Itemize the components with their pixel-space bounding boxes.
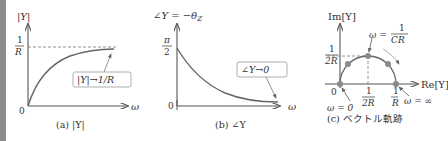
label-omega-inf: ω = ∞ <box>404 96 432 106</box>
point-omega-zero <box>337 81 343 87</box>
panel-a: |Y| 1 R 0 ω |Y|→1/R (a) |Y| <box>14 11 139 131</box>
label-omega-zero: ω = 0 <box>327 103 354 113</box>
panel-c: Im[Y] Re[Y] 1 2R 0 1 2R 1 R ω = 0 ω = ∞ … <box>324 11 448 124</box>
origin-label: 0 <box>19 106 25 116</box>
x-axis-label: ω <box>131 101 139 112</box>
x-tick-full: R <box>391 98 399 108</box>
y-tick-numerator: 1 <box>17 35 23 45</box>
origin-label: 0 <box>168 101 174 111</box>
y-tick-label: 2R <box>324 56 338 66</box>
label-omega-peak: ω = <box>369 30 387 40</box>
panel-b: ∠Y = −θZ π 2 0 ω ∠Y→0 (b) ∠Y <box>153 10 296 130</box>
point-omega-peak <box>365 53 371 59</box>
caption-a: (a) |Y| <box>56 119 85 131</box>
x-axis-label: ω <box>288 101 296 112</box>
annotation-text: |Y|→1/R <box>77 74 114 86</box>
caption-b: (b) ∠Y <box>215 119 246 130</box>
x-axis-label: Re[Y] <box>421 79 448 90</box>
svg-text:CR: CR <box>391 35 405 45</box>
origin-label: 0 <box>331 87 337 97</box>
svg-text:1: 1 <box>393 86 399 96</box>
x-tick-half: 2R <box>361 98 375 108</box>
y-axis-label: ∠Y = −θZ <box>153 10 202 23</box>
y-axis-label: |Y| <box>17 11 30 23</box>
svg-text:1: 1 <box>366 86 372 96</box>
svg-text:1: 1 <box>329 44 335 54</box>
y-axis-label: Im[Y] <box>328 11 356 22</box>
caption-c: (c) ベクトル軌跡 <box>327 113 403 124</box>
locus-semicircle <box>340 56 396 84</box>
y-tick-denominator: 2 <box>164 47 170 57</box>
figure: |Y| 1 R 0 ω |Y|→1/R (a) |Y| ∠Y = −θZ π 2… <box>0 0 448 141</box>
y-tick-denominator: R <box>14 47 22 57</box>
annotation-text: ∠Y→0 <box>241 64 269 75</box>
svg-text:1: 1 <box>399 23 405 33</box>
y-tick-numerator: π <box>163 35 171 45</box>
